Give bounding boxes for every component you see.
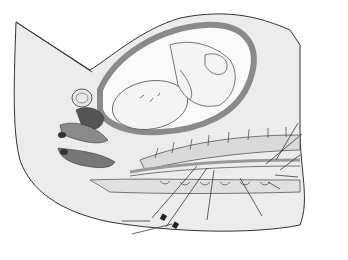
anatomy-illustration: [0, 0, 348, 260]
